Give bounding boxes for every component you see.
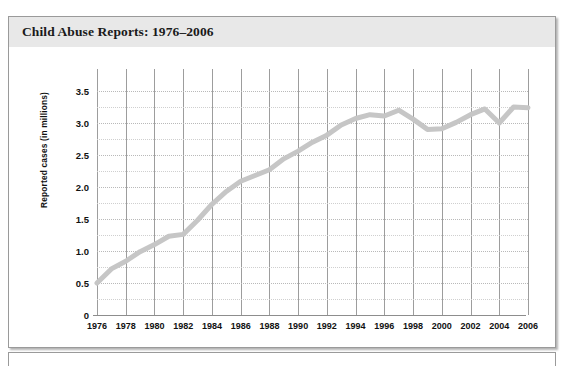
x-tick-label-1986: 1986	[231, 321, 251, 331]
x-tick-label-1976: 1976	[87, 321, 107, 331]
x-tick-label-1988: 1988	[259, 321, 279, 331]
x-tick-label-1978: 1978	[116, 321, 136, 331]
x-tick-label-2000: 2000	[432, 321, 452, 331]
y-tick-label-0: 0	[84, 310, 89, 321]
y-tick-label-1.5: 1.5	[76, 214, 89, 225]
page-title: Child Abuse Reports: 1976–2006	[22, 24, 214, 40]
x-tick-label-1998: 1998	[403, 321, 423, 331]
x-tick-label-2002: 2002	[461, 321, 481, 331]
x-tick-label-1990: 1990	[288, 321, 308, 331]
y-tick-label-2.0: 2.0	[76, 182, 89, 193]
reported-cases-line	[97, 107, 528, 283]
x-axis-line	[93, 315, 526, 316]
x-tick-label-1992: 1992	[317, 321, 337, 331]
x-tick-label-1994: 1994	[346, 321, 366, 331]
y-axis-tick-labels: 00.51.01.52.02.53.03.5	[55, 69, 89, 315]
y-axis-title: Reported cases (in millions)	[39, 60, 49, 240]
x-tick-label-1996: 1996	[374, 321, 394, 331]
x-tick-label-1984: 1984	[202, 321, 222, 331]
chart-figure-frame: Child Abuse Reports: 1976–2006 Reported …	[8, 16, 556, 348]
data-line-series	[97, 69, 528, 315]
x-tick-label-2006: 2006	[518, 321, 538, 331]
y-tick-label-1.0: 1.0	[76, 246, 89, 257]
x-axis-tick-labels: 1976197819801982198419861988199019921994…	[97, 321, 528, 337]
next-section-frame	[8, 352, 556, 366]
y-tick-label-2.5: 2.5	[76, 150, 89, 161]
y-tick-label-3.0: 3.0	[76, 118, 89, 129]
chart-title-band: Child Abuse Reports: 1976–2006	[9, 17, 555, 47]
x-tick-label-1982: 1982	[173, 321, 193, 331]
y-tick-label-3.5: 3.5	[76, 86, 89, 97]
x-tick-label-2004: 2004	[489, 321, 509, 331]
y-tick-label-0.5: 0.5	[76, 278, 89, 289]
plot-area	[97, 69, 528, 315]
x-tick-label-1980: 1980	[144, 321, 164, 331]
